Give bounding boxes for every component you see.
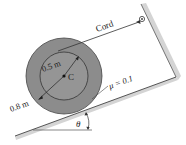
friction-label: μ = 0.1 [106,73,134,91]
outer-radius-label: 0.8 m [8,98,30,114]
diagram-canvas: Cord 0.5 m C 0.8 m μ = 0.1 θ [0,0,186,145]
center-point [62,74,65,77]
angle-label: θ [76,119,81,129]
center-label: C [68,72,74,82]
angle-arc [85,112,90,130]
